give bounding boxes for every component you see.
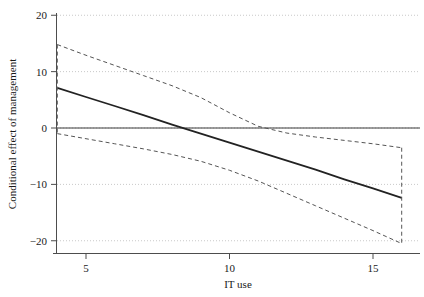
- y-tick-label-10: 10: [36, 66, 48, 78]
- x-tick-label-5: 5: [83, 262, 89, 274]
- x-axis-title: IT use: [224, 278, 252, 290]
- x-tick-label-15: 15: [368, 262, 380, 274]
- y-tick-label-0: 0: [42, 122, 48, 134]
- y-tick-label-20: 20: [36, 9, 48, 21]
- y-tick-label--20: −20: [30, 235, 48, 247]
- chart-background: [0, 0, 424, 297]
- conditional-effect-line-chart: 20100−10−20 51015 IT use Conditional eff…: [0, 0, 424, 297]
- chart-container: 20100−10−20 51015 IT use Conditional eff…: [0, 0, 424, 297]
- y-axis-title: Conditional effect of management: [6, 59, 18, 209]
- x-tick-label-10: 10: [224, 262, 236, 274]
- y-tick-label--10: −10: [30, 178, 48, 190]
